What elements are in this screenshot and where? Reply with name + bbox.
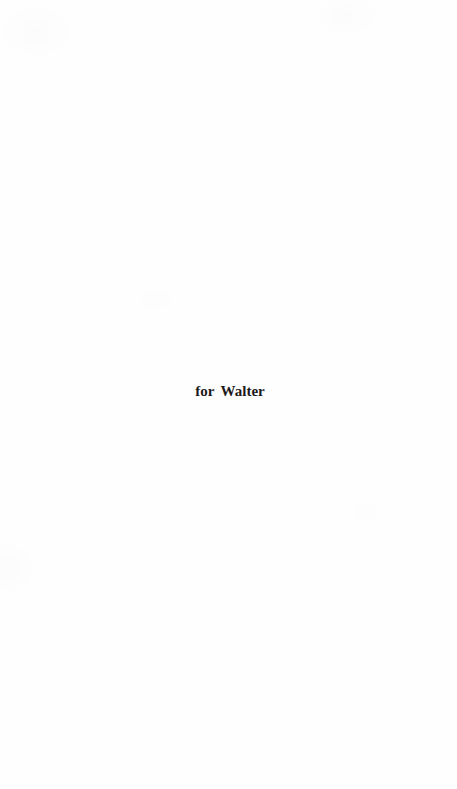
- dedication-page: for Walter: [0, 0, 457, 789]
- dedication-text: for Walter: [195, 383, 265, 399]
- dedication-block: for Walter: [0, 382, 457, 400]
